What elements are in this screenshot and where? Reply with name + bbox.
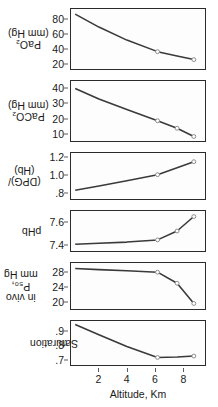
- y-tick-mark: [64, 64, 68, 65]
- x-axis: 2468: [70, 368, 206, 382]
- plot-area-p50: [70, 262, 206, 310]
- y-axis-label-line: Saturation: [30, 337, 78, 349]
- y-tick-label: 20: [52, 59, 64, 70]
- y-tick-mark: [64, 286, 68, 287]
- y-axis-label-line: in vivo: [6, 292, 36, 304]
- y-axis-label-line: PaO₂: [16, 39, 41, 51]
- data-point-marker: [175, 229, 179, 233]
- data-line: [75, 269, 194, 304]
- y-axis-label-line: mm Hg: [4, 269, 38, 281]
- panel-paco2: [70, 80, 206, 142]
- y-tick-mark: [64, 221, 68, 222]
- y-tick-mark: [64, 302, 68, 303]
- data-line: [75, 14, 194, 60]
- y-axis-label-line: PaCO₂: [12, 111, 45, 123]
- y-tick-label: 40: [52, 44, 64, 55]
- panel-saturation: [70, 320, 206, 366]
- y-axis-label-paco2: PaCO₂(mm Hg): [8, 80, 49, 142]
- y-tick-mark: [64, 118, 68, 119]
- y-tick-label: 40: [52, 83, 64, 94]
- series-plot: [71, 9, 205, 69]
- data-line: [75, 324, 194, 357]
- data-point-marker: [192, 58, 196, 62]
- x-tick-mark: [183, 368, 184, 372]
- y-axis-label-line: P₅₀,: [12, 280, 31, 292]
- series-plot: [71, 153, 205, 199]
- y-tick-label: 60: [52, 29, 64, 40]
- y-tick-label: 20: [52, 114, 64, 125]
- y-tick-mark: [64, 103, 68, 104]
- x-axis-title: Altitude, Km: [70, 388, 206, 400]
- y-tick-mark: [64, 19, 68, 20]
- plot-area-phb: [70, 210, 206, 252]
- y-tick-mark: [64, 271, 68, 272]
- plot-area-paco2: [70, 80, 206, 142]
- y-ticks-dpg-hb: 1.21.0.8: [42, 152, 68, 200]
- y-tick-label: 7.6: [49, 216, 64, 227]
- panel-dpg-hb: [70, 152, 206, 200]
- series-plot: [71, 81, 205, 141]
- y-tick-mark: [64, 156, 68, 157]
- data-point-marker: [175, 281, 179, 285]
- y-tick-label: 7.4: [49, 240, 64, 251]
- x-tick-label: 8: [180, 374, 186, 385]
- x-tick-label: 2: [95, 374, 101, 385]
- data-point-marker: [192, 135, 196, 139]
- y-axis-label-line: (Hb): [14, 165, 34, 177]
- y-axis-label-saturation: Saturation: [30, 320, 78, 366]
- data-point-marker: [156, 173, 160, 177]
- y-tick-mark: [64, 34, 68, 35]
- y-axis-label-p50: in vivoP₅₀,mm Hg: [4, 262, 38, 310]
- y-axis-label-line: (mm Hg): [8, 100, 49, 112]
- y-tick-label: 1.2: [49, 151, 64, 162]
- plot-area-dpg-hb: [70, 152, 206, 200]
- data-point-marker: [175, 126, 179, 130]
- y-axis-label-dpg-hb: (DPG)/(Hb): [8, 152, 41, 200]
- panel-pao2: [70, 8, 206, 70]
- data-point-marker: [192, 354, 196, 358]
- data-point-marker: [192, 302, 196, 306]
- data-point-marker: [156, 119, 160, 123]
- data-point-marker: [156, 238, 160, 242]
- y-axis-label-pao2: PaO₂(mm Hg): [8, 8, 49, 70]
- y-tick-label: 30: [52, 98, 64, 109]
- y-tick-label: 1.0: [49, 169, 64, 180]
- y-tick-mark: [64, 134, 68, 135]
- altitude-physiology-figure: 80604020 PaO₂(mm Hg) 40302010 PaCO₂(mm H…: [0, 0, 218, 407]
- y-tick-mark: [64, 87, 68, 88]
- panel-p50: [70, 262, 206, 310]
- data-point-marker: [156, 356, 160, 360]
- x-tick-mark: [155, 368, 156, 372]
- series-plot: [71, 321, 205, 365]
- panel-phb: [70, 210, 206, 252]
- series-plot: [71, 263, 205, 309]
- y-axis-label-phb: pHb: [22, 210, 41, 252]
- data-point-marker: [156, 50, 160, 54]
- y-tick-label: 20: [52, 297, 64, 308]
- data-point-marker: [192, 160, 196, 164]
- y-axis-label-line: pHb: [22, 225, 41, 237]
- y-tick-mark: [64, 49, 68, 50]
- y-ticks-phb: 7.67.4: [42, 210, 68, 252]
- y-axis-label-line: (mm Hg): [8, 28, 49, 40]
- x-tick-mark: [98, 368, 99, 372]
- y-axis-label-line: (DPG)/: [8, 176, 41, 188]
- data-point-marker: [192, 215, 196, 219]
- x-tick-mark: [127, 368, 128, 372]
- data-point-marker: [156, 270, 160, 274]
- y-tick-label: 10: [52, 129, 64, 140]
- data-line: [75, 162, 194, 191]
- y-tick-mark: [64, 192, 68, 193]
- plot-area-saturation: [70, 320, 206, 366]
- x-tick-label: 4: [124, 374, 130, 385]
- y-tick-label: .8: [55, 188, 64, 199]
- y-tick-label: 24: [52, 282, 64, 293]
- x-tick-label: 6: [152, 374, 158, 385]
- series-plot: [71, 211, 205, 251]
- y-ticks-p50: 282420: [42, 262, 68, 310]
- y-tick-label: 80: [52, 14, 64, 25]
- plot-area-pao2: [70, 8, 206, 70]
- y-tick-mark: [64, 245, 68, 246]
- y-tick-mark: [64, 174, 68, 175]
- y-tick-label: 28: [52, 266, 64, 277]
